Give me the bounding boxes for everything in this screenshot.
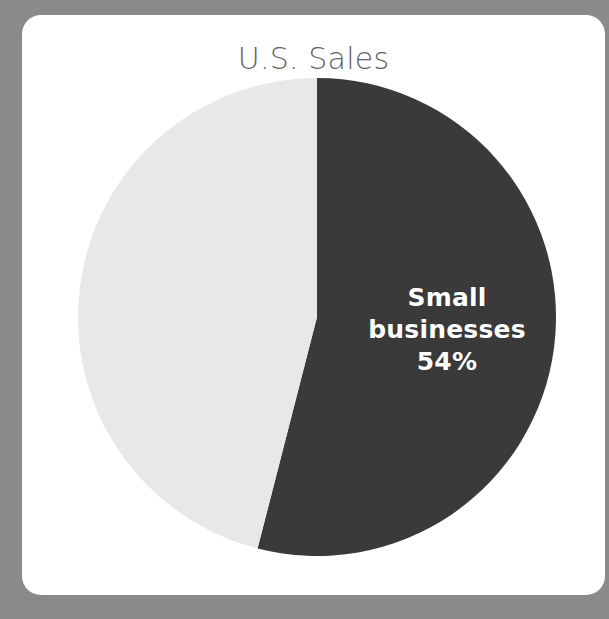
- pie-chart: [78, 78, 556, 556]
- pie-chart-svg: [78, 78, 556, 556]
- pie-slice-group: [78, 78, 556, 556]
- chart-card: U.S. Sales Small businesses 54%: [22, 15, 605, 595]
- chart-title: U.S. Sales: [22, 41, 605, 76]
